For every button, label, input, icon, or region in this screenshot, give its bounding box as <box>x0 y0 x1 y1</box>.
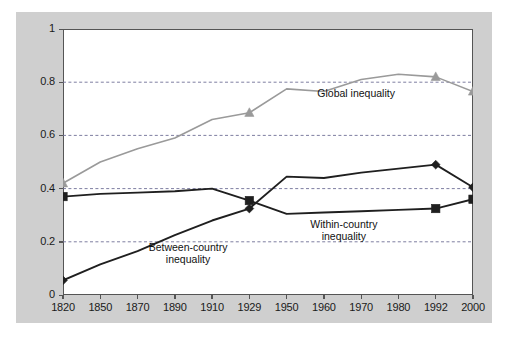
y-tick-label-4: 0.8 <box>21 75 55 87</box>
x-tick-mark <box>249 295 250 299</box>
chart-canvas <box>63 29 473 295</box>
y-tick-label-5: 1 <box>21 22 55 34</box>
x-tick-mark <box>62 295 63 299</box>
x-tick-mark <box>472 295 473 299</box>
annotation-line-1: Within-country <box>284 218 404 230</box>
x-tick-mark <box>100 295 101 299</box>
x-tick-mark <box>435 295 436 299</box>
series-line-1 <box>63 165 473 281</box>
y-tick-mark <box>59 82 63 83</box>
annotation-within: Within-countryinequality <box>284 218 404 242</box>
data-point-marker <box>245 196 253 204</box>
x-tick-mark <box>323 295 324 299</box>
y-tick-label-3: 0.6 <box>21 128 55 140</box>
data-point-marker <box>432 204 440 212</box>
data-point-marker <box>469 195 473 203</box>
x-tick-mark <box>174 295 175 299</box>
x-tick-label-2000: 2000 <box>451 301 495 313</box>
annotation-global: Global inequality <box>296 87 416 99</box>
data-point-marker <box>63 192 67 200</box>
x-tick-mark <box>361 295 362 299</box>
data-point-marker <box>63 276 67 285</box>
annotation-line-1: Between-country <box>128 241 248 253</box>
y-tick-mark <box>59 188 63 189</box>
x-tick-mark <box>286 295 287 299</box>
y-tick-label-0: 0 <box>21 288 55 300</box>
data-point-marker <box>63 178 68 187</box>
data-point-marker <box>245 108 254 117</box>
y-tick-label-2: 0.4 <box>21 182 55 194</box>
annotation-line-2: inequality <box>284 230 404 242</box>
data-point-marker <box>431 160 440 169</box>
annotation-line-1: Global inequality <box>296 87 416 99</box>
x-tick-mark <box>137 295 138 299</box>
y-tick-mark <box>59 241 63 242</box>
x-tick-mark <box>398 295 399 299</box>
annotation-between: Between-countryinequality <box>128 241 248 265</box>
annotation-line-2: inequality <box>128 253 248 265</box>
y-tick-mark <box>59 29 63 30</box>
y-tick-label-1: 0.2 <box>21 235 55 247</box>
y-tick-mark <box>59 135 63 136</box>
x-tick-mark <box>211 295 212 299</box>
figure-panel: 00.20.40.60.81 1820185018701890191019291… <box>16 12 492 323</box>
